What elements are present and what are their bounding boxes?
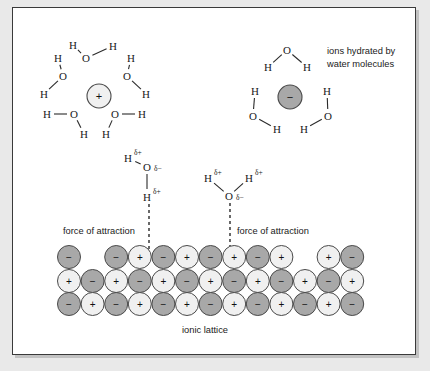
cation-water-lower-left-hydrogen-atom-1: H <box>43 108 51 120</box>
lattice-ion-sign-r3-c1: − <box>66 299 72 310</box>
lattice-ion-sign-r2-c3: + <box>113 276 119 287</box>
force-of-attraction-label-left: force of attraction <box>63 226 135 236</box>
left-dipole-hydrogen-atom-2: H <box>143 191 151 203</box>
lattice-ion-sign-r2-c10: − <box>278 276 284 287</box>
cation-water-top-hydrogen-atom-1: H <box>69 39 77 51</box>
lattice-ion-sign-r1-c12: + <box>326 252 332 263</box>
cation-water-upper-left-oh-bond-2 <box>49 81 58 89</box>
left-dipole-hydrogen-charge-1: δ+ <box>134 148 142 157</box>
anion-water-left-oh-bond-1 <box>254 98 255 109</box>
cation-water-lower-left-oxygen-atom: O <box>70 108 78 120</box>
left-dipole-hydrogen-atom-1: H <box>124 152 132 164</box>
anion-water-top-oh-bond-2 <box>292 55 301 63</box>
right-dipole-hydrogen-atom-1: H <box>204 172 212 184</box>
lattice-ion-sign-r3-c8: + <box>231 299 237 310</box>
lattice-ion-sign-r1-c10: + <box>278 252 284 263</box>
lattice-ion-sign-r3-c4: + <box>137 299 143 310</box>
anion-water-top-oxygen-atom: O <box>283 44 291 56</box>
anion-water-left-oxygen-atom: O <box>249 110 257 122</box>
ionic-lattice-caption: ionic lattice <box>182 325 228 335</box>
force-of-attraction-label-right: force of attraction <box>237 226 309 236</box>
left-dipole-hydrogen-charge-2: δ+ <box>153 187 161 196</box>
diagram-panel: OHHOHHOHHOHHOHH+OHHOHHOHH−ions hydrated … <box>12 7 416 355</box>
cation-water-top-hydrogen-atom-2: H <box>109 40 117 52</box>
hydration-note-line1: ions hydrated by <box>327 46 396 56</box>
anion-water-right-hydrogen-atom-2: H <box>300 123 308 135</box>
lattice-ion-sign-r3-c9: − <box>255 299 261 310</box>
cation-water-upper-right-hydrogen-atom-1: H <box>127 52 135 64</box>
right-dipole-oxygen-atom: O <box>225 190 233 202</box>
right-dipole-oh-bond-2 <box>234 183 243 191</box>
lattice-ion-sign-r3-c3: − <box>113 299 119 310</box>
anion-water-right-hydrogen-atom-1: H <box>323 85 331 97</box>
cation-water-top-oxygen-atom: O <box>82 52 90 64</box>
cation-water-top-oh-bond-2 <box>92 49 106 55</box>
lattice-ion-sign-r2-c13: + <box>349 276 355 287</box>
anion-water-right-oh-bond-2 <box>310 119 322 125</box>
lattice-ion-sign-r2-c8: − <box>231 276 237 287</box>
cation-water-lower-right-hydrogen-atom-1: H <box>138 108 146 120</box>
anion-water-top-hydrogen-atom-1: H <box>264 61 272 73</box>
cation-water-upper-right-hydrogen-atom-2: H <box>142 88 150 100</box>
lattice-ion-sign-r3-c2: + <box>90 299 96 310</box>
cation-water-lower-left-hydrogen-atom-2: H <box>80 128 88 140</box>
lattice-ion-sign-r2-c4: − <box>137 276 143 287</box>
cation-water-upper-left-oxygen-atom: O <box>59 70 67 82</box>
anion-water-top-hydrogen-atom-2: H <box>303 61 311 73</box>
cation-water-upper-right-oh-bond-1 <box>129 65 130 69</box>
lattice-ion-sign-r1-c4: + <box>137 252 143 263</box>
cation-water-lower-right-oxygen-atom: O <box>111 108 119 120</box>
lattice-ion-sign-r3-c13: − <box>349 299 355 310</box>
lattice-ion-sign-r2-c5: + <box>160 276 166 287</box>
cation-water-upper-left-hydrogen-atom-2: H <box>40 88 48 100</box>
lattice-ion-sign-r3-c10: + <box>278 299 284 310</box>
cation-water-upper-left-hydrogen-atom-1: H <box>54 52 62 64</box>
cation-water-lower-right-hydrogen-atom-2: H <box>102 128 110 140</box>
lattice-ion-sign-r2-c12: − <box>326 276 332 287</box>
cation-water-top-oh-bond-1 <box>78 50 81 53</box>
lattice-ion-sign-r2-c6: − <box>184 276 190 287</box>
cation-sign: + <box>96 90 102 102</box>
anion-water-left-oh-bond-2 <box>259 119 271 125</box>
lattice-ion-sign-r2-c1: + <box>66 276 72 287</box>
right-dipole-hydrogen-charge-2: δ+ <box>255 168 263 177</box>
left-dipole-oh-bond-1 <box>135 161 140 164</box>
lattice-ion-sign-r3-c7: − <box>208 299 214 310</box>
hydration-note-line2: water molecules <box>326 59 395 69</box>
anion-water-left-hydrogen-atom-2: H <box>273 123 281 135</box>
anion-water-right-oxygen-atom: O <box>324 110 332 122</box>
lattice-ion-sign-r1-c13: − <box>349 252 355 263</box>
lattice-ion-sign-r1-c5: − <box>160 252 166 263</box>
cation-water-upper-right-oh-bond-2 <box>132 81 141 89</box>
lattice-ion-sign-r2-c9: + <box>255 276 261 287</box>
cation-water-upper-right-oxygen-atom: O <box>123 70 131 82</box>
lattice-ion-sign-r2-c7: + <box>208 276 214 287</box>
chemistry-diagram: OHHOHHOHHOHHOHH+OHHOHHOHH−ions hydrated … <box>13 8 415 354</box>
lattice-ion-sign-r1-c8: + <box>231 252 237 263</box>
lattice-ion-sign-r1-c9: − <box>255 252 261 263</box>
lattice-ion-sign-r3-c12: + <box>326 299 332 310</box>
cation-water-lower-right-oh-bond-2 <box>109 120 112 127</box>
lattice-ion-sign-r1-c1: − <box>66 252 72 263</box>
cation-water-upper-left-oh-bond-1 <box>60 65 61 70</box>
cation-water-lower-left-oh-bond-2 <box>77 120 81 127</box>
right-dipole-oxygen-charge: δ− <box>236 193 244 202</box>
lattice-ion-sign-r3-c6: + <box>184 299 190 310</box>
left-dipole-oxygen-atom: O <box>143 161 151 173</box>
lattice-ion-sign-r3-c5: − <box>160 299 166 310</box>
lattice-ion-sign-r1-c7: − <box>208 252 214 263</box>
lattice-ion-sign-r3-c11: − <box>302 299 308 310</box>
right-dipole-oh-bond-1 <box>214 183 224 191</box>
left-dipole-oxygen-charge: δ− <box>154 164 162 173</box>
lattice-ion-sign-r2-c2: − <box>90 276 96 287</box>
anion-water-left-hydrogen-atom-1: H <box>251 85 259 97</box>
lattice-ion-sign-r2-c11: + <box>302 276 308 287</box>
lattice-ion-sign-r1-c6: + <box>184 252 190 263</box>
right-dipole-hydrogen-atom-2: H <box>245 172 253 184</box>
anion-water-top-oh-bond-1 <box>273 55 282 63</box>
anion-sign: − <box>287 91 293 103</box>
lattice-ion-sign-r1-c3: − <box>113 252 119 263</box>
right-dipole-hydrogen-charge-1: δ+ <box>214 168 222 177</box>
